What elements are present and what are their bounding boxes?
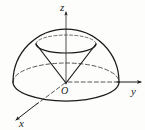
figure-canvas: z y x O	[0, 0, 145, 130]
math-figure-hemisphere-with-cone: z y x O	[0, 0, 145, 130]
x-axis-label: x	[18, 117, 24, 129]
origin-label: O	[61, 85, 68, 96]
cone-generatrix-left	[36, 44, 66, 83]
cone-generatrix-right	[66, 44, 96, 83]
y-axis-label: y	[130, 85, 136, 97]
z-axis-label: z	[59, 1, 65, 13]
